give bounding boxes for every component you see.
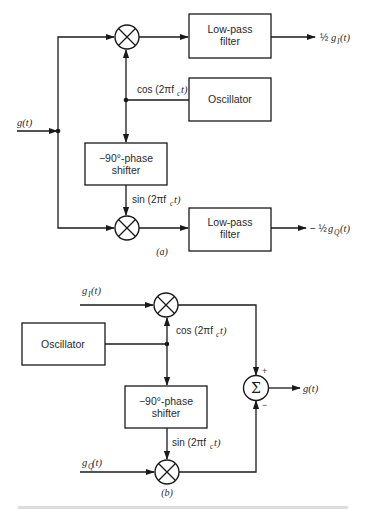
svg-text:cos (2πf: cos (2πf	[137, 84, 174, 95]
svg-text:sin (2πf: sin (2πf	[132, 194, 166, 205]
svg-text:Low-pass: Low-pass	[208, 216, 253, 228]
svg-text:g: g	[328, 223, 333, 234]
svg-text:(t): (t)	[340, 32, 350, 44]
svg-text:filter: filter	[220, 35, 240, 47]
multiplier-top-a	[115, 25, 139, 49]
diagram-a: g(t) Low-pass filter ½ g I (t) Osci	[17, 14, 350, 258]
svg-text:shifter: shifter	[112, 164, 141, 176]
svg-text:sin (2πf: sin (2πf	[172, 437, 206, 448]
svg-text:(t): (t)	[340, 223, 350, 235]
svg-text:Oscillator: Oscillator	[41, 338, 85, 350]
multiplier-bottom-b	[155, 460, 179, 484]
lowpass-filter-bottom: Low-pass filter	[189, 208, 271, 251]
svg-text:Low-pass: Low-pass	[208, 23, 253, 35]
minus-sign: −	[262, 400, 267, 410]
plus-sign: +	[262, 366, 267, 376]
quadrature-modem-diagram: g(t) Low-pass filter ½ g I (t) Osci	[0, 0, 366, 509]
svg-text:t): t)	[181, 84, 188, 96]
multiplier-bottom-a	[115, 216, 139, 240]
lowpass-filter-top: Low-pass filter	[189, 14, 271, 58]
phase-shifter-b: −90°-phase shifter	[125, 386, 207, 428]
figure-label-b: (b)	[161, 487, 173, 499]
cos-carrier-label-b: cos (2πf c t)	[176, 325, 227, 339]
sin-carrier-label-a: sin (2πf c t)	[132, 194, 181, 208]
phase-shifter-a: −90°-phase shifter	[85, 143, 167, 185]
svg-text:shifter: shifter	[152, 407, 181, 419]
figure-label-a: (a)	[156, 246, 168, 258]
input-signal-g: g(t)	[17, 117, 33, 129]
svg-text:g: g	[82, 457, 87, 468]
oscillator-a: Oscillator	[189, 78, 271, 121]
svg-text:− ½: − ½	[310, 223, 328, 234]
input-gq: g Q (t)	[82, 457, 102, 471]
output-g: g(t)	[303, 383, 319, 395]
svg-text:Oscillator: Oscillator	[208, 93, 252, 105]
wire-to-top-mixer	[58, 37, 114, 131]
output-half-gi: ½ g I (t)	[320, 32, 350, 46]
svg-text:Σ: Σ	[251, 380, 261, 396]
output-neg-half-gq: − ½ g Q (t)	[310, 223, 350, 237]
wire-top-mixer-to-sum	[178, 305, 256, 375]
input-gi: g I (t)	[82, 285, 101, 299]
svg-text:t): t)	[214, 437, 221, 449]
svg-text:½: ½	[320, 32, 329, 43]
svg-text:filter: filter	[220, 228, 240, 240]
svg-text:(t): (t)	[91, 285, 101, 297]
svg-text:g: g	[82, 285, 87, 296]
cos-carrier-label-a: cos (2πf c t)	[137, 84, 188, 98]
svg-text:−90°-phase: −90°-phase	[139, 395, 193, 407]
svg-text:t): t)	[174, 194, 181, 206]
diagram-b: g I (t) Oscillator cos (2πf c t) −90°-ph	[22, 285, 319, 499]
multiplier-top-b	[154, 293, 178, 317]
svg-text:g: g	[331, 32, 336, 43]
svg-text:cos (2πf: cos (2πf	[176, 325, 213, 336]
svg-text:(t): (t)	[92, 457, 102, 469]
svg-text:−90°-phase: −90°-phase	[99, 152, 153, 164]
sin-carrier-label-b: sin (2πf c t)	[172, 437, 221, 451]
svg-text:t): t)	[220, 325, 227, 337]
oscillator-b: Oscillator	[22, 323, 105, 365]
